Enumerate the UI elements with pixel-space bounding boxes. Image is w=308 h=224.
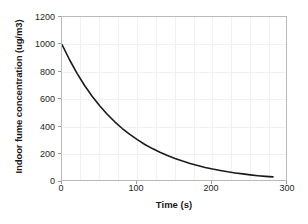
x-tickmark-100 bbox=[136, 181, 137, 184]
plot-area bbox=[61, 16, 287, 181]
chart-figure: Indoor fume concentration (ug/m3) Time (… bbox=[0, 0, 308, 224]
y-tick-label-1000: 1000 bbox=[9, 39, 55, 49]
y-tick-label-200: 200 bbox=[9, 149, 55, 159]
x-tick-label-0: 0 bbox=[41, 183, 81, 193]
y-tick-label-800: 800 bbox=[9, 67, 55, 77]
y-tick-label-400: 400 bbox=[9, 122, 55, 132]
x-tickmark-0 bbox=[61, 181, 62, 184]
x-tick-label-300: 300 bbox=[267, 183, 307, 193]
decay-curve bbox=[62, 17, 287, 181]
y-tick-label-1200: 1200 bbox=[9, 12, 55, 22]
x-tick-label-100: 100 bbox=[116, 183, 156, 193]
y-tick-label-600: 600 bbox=[9, 94, 55, 104]
x-tickmark-200 bbox=[211, 181, 212, 184]
x-tickmark-300 bbox=[286, 181, 287, 184]
x-tick-label-200: 200 bbox=[191, 183, 231, 193]
x-axis-title: Time (s) bbox=[61, 199, 287, 210]
